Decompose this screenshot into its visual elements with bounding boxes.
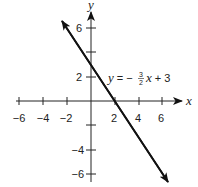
y-tick-label: −6 <box>71 168 84 180</box>
y-axis-label: y <box>86 0 94 12</box>
svg-text:x + 3: x + 3 <box>145 70 170 85</box>
x-tick-label: 6 <box>158 112 164 124</box>
x-axis-label: x <box>185 93 192 108</box>
x-tick-label: −2 <box>60 112 73 124</box>
y-tick-label: 6 <box>76 22 82 34</box>
svg-text:y = −: y = − <box>106 70 133 85</box>
svg-text:3: 3 <box>139 71 143 78</box>
x-tick-label: 4 <box>135 112 141 124</box>
y-tick-label: 2 <box>76 71 82 83</box>
equation-label: y = − 3 2 x + 3 <box>106 70 170 86</box>
coordinate-plane: −6 −4 −2 2 4 6 6 2 −4 −6 x y y = − 3 2 x… <box>0 0 198 187</box>
svg-text:2: 2 <box>139 79 143 86</box>
x-tick-label: −6 <box>13 112 26 124</box>
x-tick-label: −4 <box>37 112 50 124</box>
x-tick-label: 2 <box>111 112 117 124</box>
y-tick-label: −4 <box>71 144 84 156</box>
